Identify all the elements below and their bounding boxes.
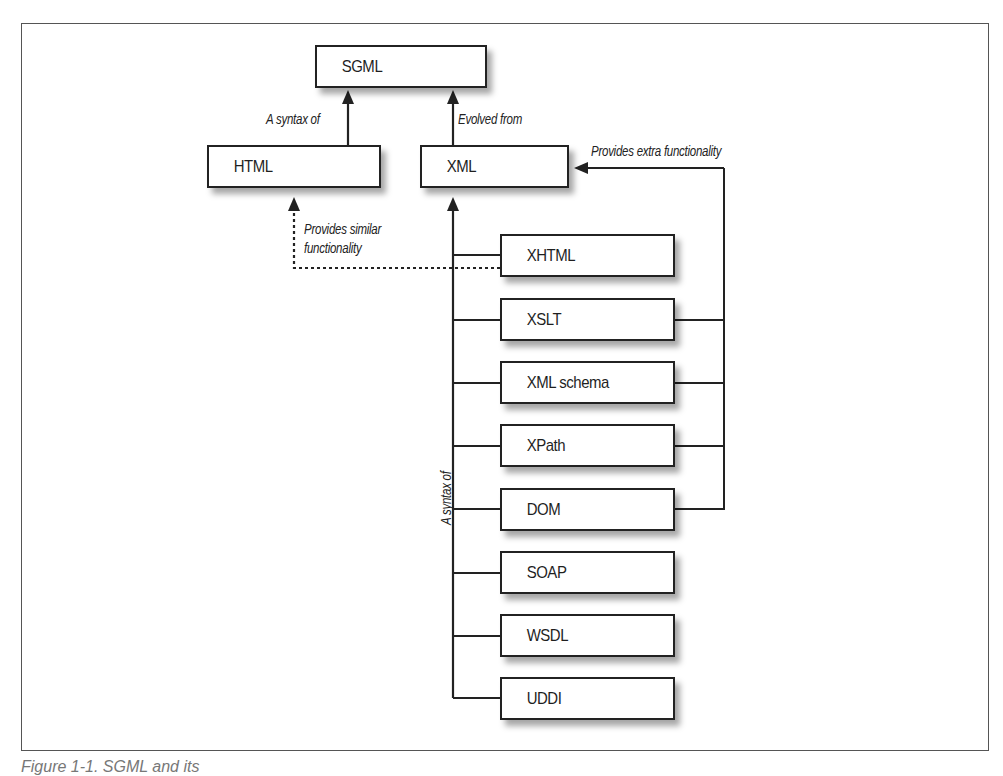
node-html: HTML: [207, 145, 381, 188]
node-xml: XML: [420, 145, 569, 188]
node-dom: DOM: [500, 488, 675, 531]
edge-label-similar-functionality-2: functionality: [304, 240, 361, 256]
node-sgml: SGML: [315, 45, 487, 88]
node-xslt: XSLT: [500, 298, 675, 341]
edge-label-extra-functionality: Provides extra functionality: [591, 143, 721, 159]
node-wsdl: WSDL: [500, 614, 675, 657]
node-xpath: XPath: [500, 424, 675, 467]
node-label: UDDI: [502, 689, 561, 709]
node-xhtml: XHTML: [500, 234, 675, 277]
node-label: SGML: [317, 57, 382, 77]
edge-label-xml-sgml: Evolved from: [458, 111, 522, 127]
node-label: HTML: [209, 157, 273, 177]
node-label: XML schema: [502, 373, 609, 393]
node-label: XPath: [502, 436, 565, 456]
node-label: XSLT: [502, 310, 561, 330]
node-label: DOM: [502, 500, 560, 520]
node-uddi: UDDI: [500, 677, 675, 720]
node-label: XHTML: [502, 246, 575, 266]
node-label: WSDL: [502, 626, 568, 646]
figure-caption: Figure 1-1. SGML and its: [21, 758, 199, 776]
edge-label-html-sgml: A syntax of: [266, 111, 320, 127]
node-label: SOAP: [502, 563, 566, 583]
node-xml-schema: XML schema: [500, 361, 675, 404]
edge-label-similar-functionality-1: Provides similar: [304, 221, 381, 237]
node-label: XML: [422, 157, 476, 177]
edge-label-children-xml: A syntax of: [438, 471, 454, 525]
node-soap: SOAP: [500, 551, 675, 594]
